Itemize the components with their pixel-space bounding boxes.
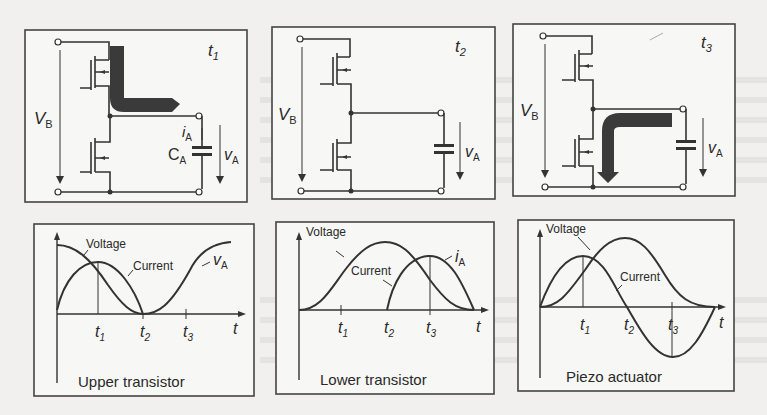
- current-label: Current: [133, 259, 174, 273]
- diagram-canvas: t1 VB iA CA vA t2 VB vA: [0, 0, 767, 415]
- axis-t-label: t: [233, 320, 238, 337]
- voltage-label: Voltage: [306, 225, 346, 239]
- plot-caption: Lower transistor: [320, 371, 427, 388]
- voltage-label: Voltage: [86, 237, 126, 251]
- current-label: Current: [620, 270, 661, 284]
- axis-t-label: t: [476, 318, 481, 335]
- axis-t-label: t: [719, 314, 724, 331]
- plot-caption: Upper transistor: [78, 373, 185, 390]
- plot-piezo-actuator: Voltage Current t1 t2 t3 t Piezo actuato…: [518, 220, 734, 391]
- circuit-panel-t3: t3 VB vA: [513, 24, 735, 196]
- plot-caption: Piezo actuator: [566, 368, 662, 385]
- plot-upper-transistor: Voltage Current vA t1 t2 t3 t Upper tran…: [34, 224, 254, 396]
- circuit-panel-t1: t1 VB iA CA vA: [25, 30, 247, 202]
- voltage-label: Voltage: [546, 222, 586, 236]
- plot-lower-transistor: Voltage Current iA t1 t2 t3 t Lower tran…: [276, 222, 494, 394]
- current-label: Current: [351, 264, 392, 278]
- circuit-panel-t2: t2 VB vA: [272, 27, 495, 199]
